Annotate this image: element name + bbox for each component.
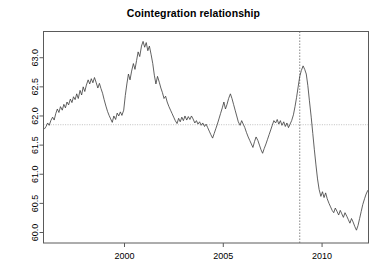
- y-tick-label: 61.5: [30, 136, 40, 154]
- x-tick-label: 2010: [312, 251, 332, 261]
- x-axis-tick-labels: 200020052010: [114, 251, 332, 261]
- x-tick-label: 2000: [114, 251, 134, 261]
- y-tick-label: 60.0: [30, 224, 40, 242]
- plot-border: [44, 32, 369, 244]
- y-tick-label: 63.0: [30, 49, 40, 67]
- y-axis-tick-labels: 60.060.561.061.562.062.563.0: [30, 49, 40, 241]
- y-tick-label: 62.5: [30, 78, 40, 96]
- x-axis-tick-marks: [125, 243, 323, 247]
- y-tick-label: 61.0: [30, 165, 40, 183]
- series-line-cointegration-residual: [44, 41, 367, 230]
- y-tick-label: 62.0: [30, 107, 40, 125]
- y-tick-label: 60.5: [30, 195, 40, 213]
- x-tick-label: 2005: [213, 251, 233, 261]
- cointegration-line-chart: 60.060.561.061.562.062.563.0 20002005201…: [0, 0, 387, 269]
- reference-lines: [44, 32, 369, 244]
- y-axis-tick-marks: [40, 58, 44, 233]
- chart-figure: Cointegration relationship 60.060.561.06…: [0, 0, 387, 269]
